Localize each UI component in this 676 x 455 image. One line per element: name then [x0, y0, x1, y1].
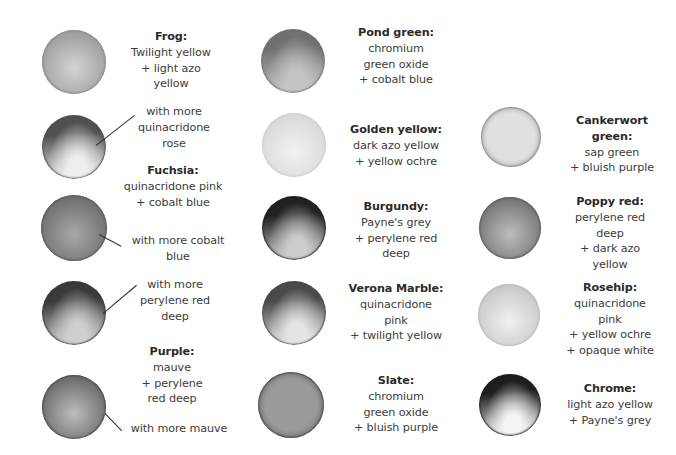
- mix-title: Purple:: [124, 344, 220, 360]
- variation-line: with more: [124, 277, 226, 293]
- mix-line: perylene red: [560, 210, 660, 226]
- mix-line: + Payne's grey: [556, 413, 664, 429]
- label-fuchsia: Fuchsia: quinacridone pink + cobalt blue: [118, 163, 228, 210]
- variation-line: with more cobalt: [124, 233, 232, 249]
- mix-line: green oxide: [346, 57, 446, 73]
- mix-line: chromium: [346, 41, 446, 57]
- mix-line: yellow: [560, 257, 660, 273]
- swatch-pond-green: [261, 29, 325, 93]
- mix-line: + cobalt blue: [118, 195, 228, 211]
- mix-title: Verona Marble:: [342, 281, 450, 297]
- variation-line: quinacridone: [124, 120, 224, 136]
- mix-line: + perylene red: [346, 231, 446, 247]
- mix-line: + cobalt blue: [346, 72, 446, 88]
- swatch-cankerwort-green: [481, 107, 541, 167]
- mix-line: quinacridone pink: [118, 179, 228, 195]
- mix-title: Slate:: [344, 373, 448, 389]
- mix-title: Chrome:: [556, 381, 664, 397]
- label-frog: Frog: Twilight yellow + light azo yellow: [118, 29, 224, 92]
- swatch-rosehip: [478, 284, 540, 346]
- mix-line: + bluish purple: [560, 160, 664, 176]
- mix-line: yellow: [118, 76, 224, 92]
- mix-line: + yellow ochre: [340, 154, 452, 170]
- swatch-golden-yellow: [262, 113, 326, 177]
- label-poppy-red: Poppy red: perylene red deep + dark azo …: [560, 194, 660, 273]
- label-golden-yellow: Golden yellow: dark azo yellow + yellow …: [340, 122, 452, 169]
- swatch-frog-rose: [42, 115, 106, 179]
- label-chrome: Chrome: light azo yellow + Payne's grey: [556, 381, 664, 428]
- variation-line: with more: [124, 104, 224, 120]
- leader-line-mauve: [105, 413, 123, 431]
- mix-line: + yellow ochre: [556, 327, 664, 343]
- variation-line: blue: [124, 249, 232, 265]
- mix-title: green:: [560, 129, 664, 145]
- mix-title: Frog:: [118, 29, 224, 45]
- label-fuchsia-cobalt: with more cobalt blue: [124, 233, 232, 265]
- mix-line: deep: [346, 246, 446, 262]
- label-rosehip: Rosehip: quinacridone pink + yellow ochr…: [556, 280, 664, 359]
- label-fuchsia-red: with more perylene red deep: [124, 277, 226, 324]
- mix-title: Burgundy:: [346, 199, 446, 215]
- mix-title: Poppy red:: [560, 194, 660, 210]
- mix-title: Golden yellow:: [340, 122, 452, 138]
- mix-line: deep: [560, 226, 660, 242]
- mix-line: pink: [342, 313, 450, 329]
- label-pond-green: Pond green: chromium green oxide + cobal…: [346, 25, 446, 88]
- mix-line: Payne's grey: [346, 215, 446, 231]
- mix-line: green oxide: [344, 405, 448, 421]
- swatch-slate: [258, 372, 324, 438]
- label-cankerwort-green: Cankerwort green: sap green + bluish pur…: [560, 113, 664, 176]
- swatch-burgundy: [262, 196, 326, 260]
- label-purple: Purple: mauve + perylene red deep: [124, 344, 220, 407]
- swatch-fuchsia-cobalt: [41, 195, 107, 261]
- label-frog-rose: with more quinacridone rose: [124, 104, 224, 151]
- label-purple-mauve: with more mauve: [124, 421, 234, 437]
- mix-line: + dark azo: [560, 241, 660, 257]
- mix-line: dark azo yellow: [340, 138, 452, 154]
- label-burgundy: Burgundy: Payne's grey + perylene red de…: [346, 199, 446, 262]
- mix-line: sap green: [560, 145, 664, 161]
- swatch-fuchsia-red: [42, 281, 106, 345]
- mix-line: quinacridone: [342, 297, 450, 313]
- label-slate: Slate: chromium green oxide + bluish pur…: [344, 373, 448, 436]
- mix-title: Pond green:: [346, 25, 446, 41]
- variation-line: with more mauve: [124, 421, 234, 437]
- label-verona-marble: Verona Marble: quinacridone pink + twili…: [342, 281, 450, 344]
- swatch-chrome: [479, 374, 541, 436]
- mix-line: mauve: [124, 360, 220, 376]
- swatch-verona-marble: [262, 281, 326, 345]
- mix-title: Fuchsia:: [118, 163, 228, 179]
- mix-line: + bluish purple: [344, 420, 448, 436]
- mix-line: quinacridone: [556, 296, 664, 312]
- mix-line: pink: [556, 312, 664, 328]
- mix-line: + light azo: [118, 61, 224, 77]
- swatch-poppy-red: [479, 197, 541, 259]
- variation-line: deep: [124, 309, 226, 325]
- variation-line: perylene red: [124, 293, 226, 309]
- mix-title: Rosehip:: [556, 280, 664, 296]
- mix-title: Cankerwort: [560, 113, 664, 129]
- swatch-purple-mauve: [42, 375, 106, 439]
- mix-line: light azo yellow: [556, 397, 664, 413]
- mix-line: + twilight yellow: [342, 328, 450, 344]
- mix-line: red deep: [124, 391, 220, 407]
- variation-line: rose: [124, 136, 224, 152]
- mix-line: Twilight yellow: [118, 45, 224, 61]
- swatch-frog: [42, 30, 106, 94]
- mix-line: + opaque white: [556, 343, 664, 359]
- mix-line: + perylene: [124, 376, 220, 392]
- mix-line: chromium: [344, 389, 448, 405]
